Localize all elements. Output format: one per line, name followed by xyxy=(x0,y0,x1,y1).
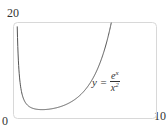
formula-lhs: y = xyxy=(92,76,107,88)
function-curve xyxy=(17,23,111,110)
plot-area xyxy=(0,0,168,131)
formula-fraction: ex x2 xyxy=(110,70,120,94)
plot-frame xyxy=(14,23,157,119)
function-label: y = ex x2 xyxy=(92,70,120,94)
